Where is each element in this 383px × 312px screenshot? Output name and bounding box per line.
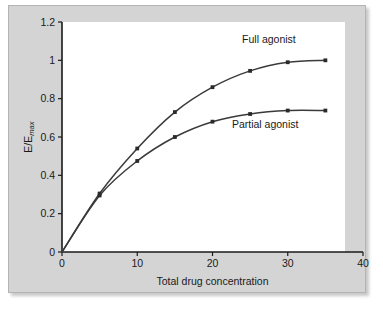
data-point-marker	[323, 58, 327, 62]
data-point-marker	[248, 69, 252, 73]
series-layer	[62, 58, 327, 252]
data-point-marker	[173, 110, 177, 114]
y-axis-title: E/Emax	[22, 120, 36, 152]
y-tick-label: 0.2	[40, 207, 55, 219]
y-tick-label: 1.2	[40, 16, 55, 28]
data-point-marker	[98, 194, 102, 198]
x-axis-title: Total drug concentration	[156, 275, 268, 287]
data-point-marker	[135, 147, 139, 151]
series-curve	[62, 110, 325, 252]
data-point-marker	[323, 109, 327, 113]
data-point-marker	[211, 85, 215, 89]
y-axis: 00.20.40.60.811.2	[40, 16, 62, 258]
x-tick-label: 40	[357, 257, 369, 269]
y-tick-label: 1	[49, 54, 55, 66]
y-tick-label: 0.4	[40, 169, 55, 181]
data-point-marker	[211, 120, 215, 124]
data-point-marker	[286, 60, 290, 64]
x-tick-label: 10	[131, 257, 143, 269]
series-annotation-1: Partial agonist	[232, 118, 299, 130]
y-tick-label: 0	[49, 246, 55, 258]
data-point-marker	[173, 135, 177, 139]
x-tick-label: 0	[59, 257, 65, 269]
data-point-marker	[248, 112, 252, 116]
data-point-marker	[286, 109, 290, 113]
dose-response-chart: 00.20.40.60.811.2 010203040 Full agonist…	[0, 0, 383, 312]
series-curve	[62, 60, 325, 252]
x-tick-label: 30	[282, 257, 294, 269]
y-tick-label: 0.8	[40, 92, 55, 104]
x-axis: 010203040	[59, 252, 369, 269]
data-point-marker	[135, 159, 139, 163]
figure-container: 00.20.40.60.811.2 010203040 Full agonist…	[0, 0, 383, 312]
x-tick-label: 20	[207, 257, 219, 269]
y-tick-label: 0.6	[40, 131, 55, 143]
series-annotation-0: Full agonist	[242, 33, 296, 45]
series-0	[62, 58, 327, 252]
